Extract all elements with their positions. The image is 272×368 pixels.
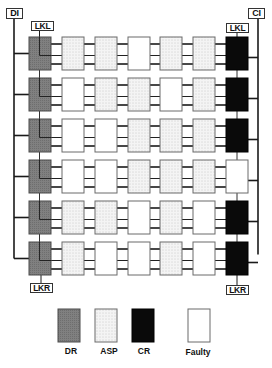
cell-asp-r4-c6 [193, 160, 215, 193]
cell-faulty-r5-c6 [193, 201, 215, 234]
cell-faulty-r6-c6 [193, 242, 215, 275]
cell-asp-r1-c6 [193, 37, 215, 70]
cell-asp-r3-c6 [193, 119, 215, 152]
lkr-left-label: LKR [30, 283, 53, 293]
cell-asp-r5-c5 [160, 201, 182, 234]
cell-asp-r2-c3 [95, 78, 117, 111]
cell-asp-r5-c2 [62, 201, 84, 234]
ci-label: CI [248, 8, 265, 19]
legend-swatch-cr [132, 309, 154, 342]
cell-asp-r4-c4 [128, 160, 150, 193]
cell-asp-r6-c2 [62, 242, 84, 275]
cell-faulty-r6-c4 [128, 242, 150, 275]
legend-label-dr: DR [58, 346, 84, 356]
cell-cr-r1-c7 [226, 37, 248, 70]
cell-cr-r5-c7 [226, 201, 248, 234]
cell-cr-r3-c7 [226, 119, 248, 152]
legend-swatch-dr [58, 309, 80, 342]
cell-asp-r2-c6 [193, 78, 215, 111]
cell-asp-r6-c5 [160, 242, 182, 275]
legend-label-faulty: Faulty [181, 347, 215, 357]
cell-dr-r4-c1 [29, 160, 51, 193]
lkl-left-label: LKL [31, 21, 54, 31]
cell-asp-r3-c5 [160, 119, 182, 152]
cell-faulty-r6-c3 [95, 242, 117, 275]
cell-faulty-r4-c3 [95, 160, 117, 193]
cell-faulty-r4-c7 [226, 160, 248, 193]
legend-label-cr: CR [131, 346, 157, 356]
lkl-right-label: LKL [226, 23, 249, 33]
di-label: DI [6, 8, 23, 19]
cell-faulty-r2-c2 [62, 78, 84, 111]
legend-swatches [58, 309, 210, 342]
cell-dr-r1-c1 [29, 37, 51, 70]
legend-swatch-asp [95, 309, 117, 342]
legend-label-asp: ASP [94, 346, 124, 356]
cell-asp-r1-c2 [62, 37, 84, 70]
cell-faulty-r3-c2 [62, 119, 84, 152]
cell-asp-r3-c4 [128, 119, 150, 152]
cell-asp-r2-c4 [128, 78, 150, 111]
cell-asp-r4-c5 [160, 160, 182, 193]
cell-faulty-r4-c2 [62, 160, 84, 193]
cell-dr-r3-c1 [29, 119, 51, 152]
cell-cr-r6-c7 [226, 242, 248, 275]
processor-grid [29, 37, 248, 275]
cell-dr-r6-c1 [29, 242, 51, 275]
cell-cr-r2-c7 [226, 78, 248, 111]
lkr-right-label: LKR [226, 285, 249, 295]
cell-faulty-r1-c4 [128, 37, 150, 70]
legend-swatch-faulty [188, 309, 210, 342]
cell-dr-r5-c1 [29, 201, 51, 234]
cell-asp-r1-c5 [160, 37, 182, 70]
processor-array-diagram [0, 0, 272, 368]
cell-faulty-r5-c4 [128, 201, 150, 234]
cell-faulty-r3-c3 [95, 119, 117, 152]
cell-asp-r1-c3 [95, 37, 117, 70]
cell-asp-r5-c3 [95, 201, 117, 234]
cell-dr-r2-c1 [29, 78, 51, 111]
cell-faulty-r2-c5 [160, 78, 182, 111]
